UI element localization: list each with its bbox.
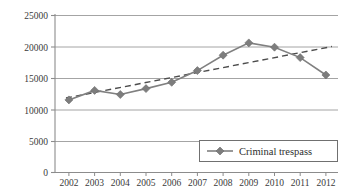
x-tick-label-2011: 2011 bbox=[291, 178, 310, 188]
y-tick-label-15000: 15000 bbox=[24, 74, 48, 84]
x-tick-label-2006: 2006 bbox=[162, 178, 181, 188]
x-tick-label-2002: 2002 bbox=[59, 178, 78, 188]
x-tick-label-2007: 2007 bbox=[188, 178, 207, 188]
x-tick-label-2003: 2003 bbox=[85, 178, 104, 188]
y-tick-label-25000: 25000 bbox=[24, 11, 48, 21]
line-chart: 25000 20000 15000 10000 5000 0 2002 2003… bbox=[0, 0, 350, 188]
y-tick-label-0: 0 bbox=[43, 168, 48, 178]
legend-label-criminal-trespass: Criminal trespass bbox=[239, 146, 312, 157]
x-axis-labels: 2002 2003 2004 2005 2006 2007 2008 2009 … bbox=[59, 178, 335, 188]
x-tick-label-2010: 2010 bbox=[265, 178, 284, 188]
x-tick-label-2004: 2004 bbox=[111, 178, 130, 188]
x-tick-label-2008: 2008 bbox=[214, 178, 233, 188]
chart-figure: 25000 20000 15000 10000 5000 0 2002 2003… bbox=[0, 0, 350, 188]
x-tick-label-2012: 2012 bbox=[316, 178, 335, 188]
y-tick-label-5000: 5000 bbox=[29, 137, 48, 147]
legend: Criminal trespass bbox=[200, 141, 338, 162]
x-tick-label-2005: 2005 bbox=[137, 178, 156, 188]
y-tick-label-20000: 20000 bbox=[24, 43, 48, 53]
y-tick-label-10000: 10000 bbox=[24, 106, 48, 116]
x-tick-label-2009: 2009 bbox=[239, 178, 258, 188]
